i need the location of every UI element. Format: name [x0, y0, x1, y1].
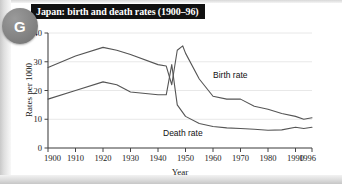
series-line-death-rate — [48, 65, 312, 131]
x-tick-label: 1930 — [122, 153, 139, 163]
x-tick-label: 1910 — [67, 153, 84, 163]
x-tick-label: 1970 — [232, 153, 249, 163]
figure-title-banner: Japan: birth and death rates (1900–96) — [31, 4, 205, 19]
x-axis-title: Year — [172, 167, 189, 177]
x-tick-label: 1960 — [205, 153, 222, 163]
series-label-death-rate: Death rate — [163, 128, 203, 138]
chart-x-axis: 1900191019201930194019501960197019801990… — [44, 148, 316, 163]
chart-plot-area: 010203040 190019101920193019401950196019… — [0, 0, 342, 184]
x-tick-label: 1950 — [177, 153, 194, 163]
x-tick-label: 1980 — [260, 153, 277, 163]
y-tick-label: 20 — [34, 86, 43, 96]
line-chart-svg: 010203040 190019101920193019401950196019… — [0, 0, 342, 184]
chart-y-axis: 010203040 — [34, 28, 49, 153]
x-tick-label: 1900 — [44, 153, 61, 163]
chart-series-group — [48, 46, 312, 130]
y-tick-label: 30 — [34, 57, 43, 67]
figure-badge-letter: G — [2, 8, 38, 44]
figure-screenshot: G Japan: birth and death rates (1900–96)… — [0, 0, 342, 184]
y-tick-label: 10 — [34, 114, 43, 124]
page-title: Japan: birth and death rates (1900–96) — [36, 6, 199, 17]
x-tick-label: 1996 — [299, 153, 316, 163]
x-tick-label: 1920 — [95, 153, 112, 163]
y-tick-label: 0 — [38, 143, 42, 153]
y-axis-title: Rates per 1000 — [24, 63, 34, 117]
figure-badge: G — [2, 8, 38, 44]
x-tick-label: 1940 — [150, 153, 167, 163]
series-label-birth-rate: Birth rate — [213, 70, 248, 80]
